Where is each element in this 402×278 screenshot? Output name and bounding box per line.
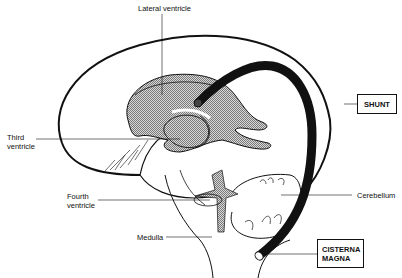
label-third-ventricle-line2: ventricle	[7, 142, 35, 151]
label-third-ventricle-line1: Third	[7, 133, 35, 142]
label-fourth-ventricle-line1: Fourth	[67, 192, 95, 201]
cisterna-magna-label-box: CISTERNA MAGNA	[317, 239, 364, 268]
cisterna-magna-line2: MAGNA	[322, 254, 350, 263]
cisterna-magna-line1: CISTERNA	[322, 245, 360, 254]
label-lateral-ventricle: Lateral ventricle	[138, 4, 191, 13]
brain-diagram	[0, 0, 402, 278]
label-fourth-ventricle: Fourth ventricle	[67, 192, 95, 210]
shunt-label-box: SHUNT	[357, 94, 397, 114]
label-cerebellum: Cerebellum	[357, 191, 395, 200]
label-third-ventricle: Third ventricle	[7, 133, 35, 151]
label-fourth-ventricle-line2: ventricle	[67, 201, 95, 210]
medulla-outline	[165, 175, 213, 278]
label-medulla: Medulla	[137, 233, 163, 242]
shunt-proximal-end	[194, 99, 202, 107]
cerebrum-lower-outline	[62, 143, 140, 175]
